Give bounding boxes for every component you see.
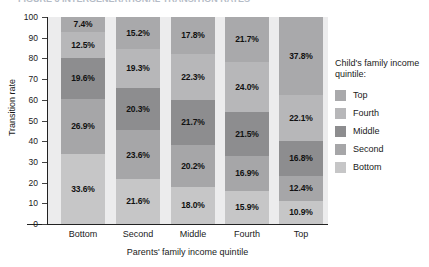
y-axis-tick-label: 10: [0, 199, 38, 208]
y-axis-tick-label: 40: [0, 137, 38, 146]
legend-swatch-icon: [335, 162, 346, 173]
bar-segment-bottom: 15.9%: [225, 191, 269, 224]
y-axis-tick-label: 90: [0, 34, 38, 43]
bar-segment-second: 20.2%: [171, 145, 215, 187]
bar-segment-value-label: 16.9%: [235, 169, 259, 178]
bar-segment-middle: 16.8%: [279, 141, 323, 176]
x-axis-tick-label-fourth: Fourth: [217, 230, 277, 239]
bar-segment-value-label: 23.6%: [126, 151, 150, 160]
x-axis-line: [27, 224, 328, 225]
y-axis-tick: [42, 58, 47, 59]
bar-segment-second: 12.4%: [279, 176, 323, 202]
bar-segment-bottom: 21.6%: [116, 179, 160, 224]
bar-segment-value-label: 21.7%: [235, 35, 259, 44]
bar-segment-middle: 21.7%: [171, 100, 215, 145]
bar-segment-value-label: 12.4%: [289, 184, 313, 193]
y-axis-line: [47, 17, 48, 225]
legend-swatch-icon: [335, 90, 346, 101]
bar-top: 10.9%12.4%16.8%22.1%37.8%: [279, 17, 323, 224]
bar-segment-fourth: 22.1%: [279, 95, 323, 141]
x-axis-tick-label-bottom: Bottom: [53, 230, 113, 239]
bar-fourth: 15.9%16.9%21.5%24.0%21.7%: [225, 17, 269, 224]
legend-item-label: Fourth: [353, 109, 379, 118]
bar-segment-middle: 19.6%: [61, 58, 105, 99]
y-axis-tick-label: 100: [0, 13, 38, 22]
bar-second: 21.6%23.6%20.3%19.3%15.2%: [116, 17, 160, 224]
bar-segment-value-label: 22.3%: [181, 73, 205, 82]
legend-item-second[interactable]: Second: [335, 140, 429, 158]
y-axis-title: Transition rate: [8, 43, 17, 173]
y-axis-tick: [42, 17, 47, 18]
y-axis-tick: [42, 38, 47, 39]
legend-swatch-icon: [335, 126, 346, 137]
bar-segment-value-label: 22.1%: [289, 114, 313, 123]
bar-segment-value-label: 18.0%: [181, 201, 205, 210]
legend: Child's family income quintile: TopFourt…: [335, 58, 429, 176]
y-axis-tick: [42, 141, 47, 142]
legend-swatch-icon: [335, 108, 346, 119]
y-axis-tick-label: 20: [0, 179, 38, 188]
bar-segment-value-label: 17.8%: [181, 31, 205, 40]
bar-segment-top: 15.2%: [116, 17, 160, 48]
bar-segment-value-label: 19.6%: [71, 74, 95, 83]
bar-segment-fourth: 22.3%: [171, 54, 215, 100]
legend-title: Child's family income quintile:: [335, 58, 427, 80]
x-axis-tick-label-middle: Middle: [163, 230, 223, 239]
y-axis-tick: [42, 224, 47, 225]
legend-swatch-icon: [335, 144, 346, 155]
legend-item-label: Bottom: [353, 163, 382, 172]
legend-item-middle[interactable]: Middle: [335, 122, 429, 140]
bar-segment-value-label: 16.8%: [289, 154, 313, 163]
bar-segment-value-label: 20.3%: [126, 105, 150, 114]
bar-segment-bottom: 33.6%: [61, 154, 105, 224]
legend-item-label: Top: [353, 91, 368, 100]
x-axis-tick-label-top: Top: [271, 230, 331, 239]
bar-segment-second: 26.9%: [61, 99, 105, 155]
bar-segment-top: 37.8%: [279, 17, 323, 95]
bar-segment-value-label: 12.5%: [71, 41, 95, 50]
legend-item-label: Middle: [353, 127, 380, 136]
y-axis-tick: [42, 79, 47, 80]
y-axis-tick-label: 80: [0, 54, 38, 63]
bar-segment-value-label: 19.3%: [126, 64, 150, 73]
y-axis-tick-label: 30: [0, 158, 38, 167]
bar-segment-fourth: 19.3%: [116, 49, 160, 89]
y-axis-tick-label: 0: [0, 220, 38, 229]
bar-segment-top: 7.4%: [61, 17, 105, 32]
bar-segment-fourth: 12.5%: [61, 32, 105, 58]
bar-segment-bottom: 10.9%: [279, 201, 323, 224]
bar-segment-value-label: 24.0%: [235, 83, 259, 92]
bar-segment-value-label: 33.6%: [71, 185, 95, 194]
bar-bottom: 33.6%26.9%19.6%12.5%7.4%: [61, 17, 105, 224]
bar-segment-bottom: 18.0%: [171, 187, 215, 224]
bar-segment-value-label: 7.4%: [74, 20, 93, 29]
bar-segment-value-label: 10.9%: [289, 208, 313, 217]
bar-segment-top: 17.8%: [171, 17, 215, 54]
bar-segment-middle: 21.5%: [225, 112, 269, 157]
bar-segment-fourth: 24.0%: [225, 62, 269, 112]
bar-segment-second: 23.6%: [116, 130, 160, 179]
y-axis-tick: [42, 121, 47, 122]
bar-segment-value-label: 20.2%: [181, 162, 205, 171]
bar-segment-value-label: 26.9%: [71, 122, 95, 131]
stacked-bar-chart: 0102030405060708090100 Transition rate 3…: [0, 0, 429, 267]
legend-item-label: Second: [353, 145, 384, 154]
bar-segment-value-label: 15.2%: [126, 29, 150, 38]
legend-item-bottom[interactable]: Bottom: [335, 158, 429, 176]
bar-segment-value-label: 21.5%: [235, 130, 259, 139]
bar-segment-value-label: 21.7%: [181, 118, 205, 127]
bar-segment-value-label: 15.9%: [235, 203, 259, 212]
bar-segment-value-label: 37.8%: [289, 52, 313, 61]
x-axis-title: Parents' family income quintile: [47, 248, 328, 257]
bar-segment-second: 16.9%: [225, 156, 269, 191]
bar-middle: 18.0%20.2%21.7%22.3%17.8%: [171, 17, 215, 224]
y-axis-tick: [42, 162, 47, 163]
bar-segment-top: 21.7%: [225, 17, 269, 62]
legend-item-fourth[interactable]: Fourth: [335, 104, 429, 122]
legend-item-top[interactable]: Top: [335, 86, 429, 104]
y-axis-tick: [42, 100, 47, 101]
bar-segment-middle: 20.3%: [116, 88, 160, 130]
bar-segment-value-label: 21.6%: [126, 197, 150, 206]
y-axis-tick: [42, 203, 47, 204]
legend-items: TopFourthMiddleSecondBottom: [335, 86, 429, 176]
